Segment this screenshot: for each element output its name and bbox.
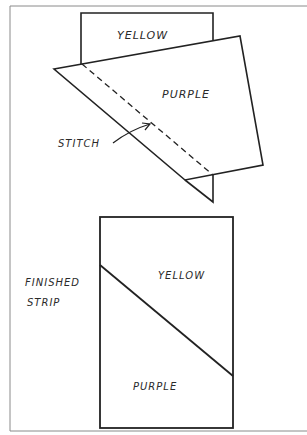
purple-label-bottom: PURPLE <box>133 382 177 392</box>
finished-caption-text2: STRIP <box>27 297 60 308</box>
stitch-label-text: STITCH <box>58 138 100 149</box>
purple-fabric-piece <box>54 36 263 180</box>
purple-label-bottom-text: PURPLE <box>133 381 177 392</box>
purple-label-top: PURPLE <box>162 89 210 100</box>
finished-strip-seam <box>100 265 233 376</box>
stitch-label: STITCH <box>58 139 100 149</box>
yellow-label-bottom-text: YELLOW <box>158 270 205 281</box>
yellow-label-text: YELLOW <box>117 29 168 42</box>
finished-strip <box>100 217 233 428</box>
yellow-label-bottom: YELLOW <box>158 271 205 281</box>
finished-caption-line1: FINISHED <box>25 278 80 288</box>
diagram-canvas: YELLOW PURPLE STITCH FINISHED STRIP YELL… <box>0 0 307 435</box>
yellow-label-top: YELLOW <box>117 30 168 41</box>
diagram-drawing <box>0 0 307 435</box>
finished-caption-text1: FINISHED <box>25 277 80 288</box>
finished-caption-line2: STRIP <box>27 298 60 308</box>
purple-label-text: PURPLE <box>162 88 210 101</box>
